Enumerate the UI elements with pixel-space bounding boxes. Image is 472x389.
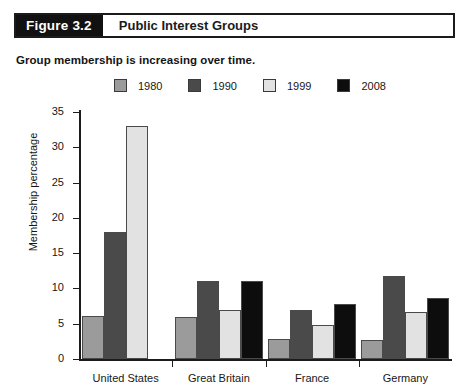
bar-united-states-1999	[126, 126, 148, 359]
bar-united-states-1990	[104, 232, 126, 359]
bar-great-britain-1990	[197, 281, 219, 359]
y-axis-title: Membership percentage	[27, 112, 39, 272]
x-axis-label-united-states: United States	[93, 372, 159, 384]
y-axis-tick: 5	[73, 324, 79, 325]
y-axis-tick: 20	[73, 218, 79, 219]
bar-germany-2008	[427, 298, 449, 359]
y-axis-tick-label: 15	[52, 246, 64, 258]
bar-france-1990	[290, 310, 312, 359]
x-axis-label-france: France	[295, 372, 329, 384]
x-axis-tick	[172, 361, 173, 367]
bar-great-britain-1999	[219, 310, 241, 359]
y-axis-tick-label: 10	[52, 281, 64, 293]
y-axis-tick-label: 20	[52, 211, 64, 223]
x-axis-label-great-britain: Great Britain	[188, 372, 250, 384]
bar-great-britain-2008	[241, 281, 263, 359]
chart-plot-area: Membership percentage 05101520253035Unit…	[0, 0, 472, 389]
x-axis-tick	[359, 361, 360, 367]
bar-great-britain-1980	[175, 317, 197, 359]
y-axis-tick: 15	[73, 253, 79, 254]
y-axis-tick-label: 25	[52, 176, 64, 188]
y-axis-tick: 0	[73, 359, 79, 360]
y-axis-tick: 10	[73, 288, 79, 289]
y-axis-tick-label: 0	[58, 352, 64, 364]
bar-france-2008	[334, 304, 356, 359]
y-axis-tick-label: 30	[52, 140, 64, 152]
bar-france-1999	[312, 325, 334, 359]
y-axis-tick: 25	[73, 183, 79, 184]
bar-france-1980	[268, 339, 290, 359]
y-axis-tick-label: 5	[58, 317, 64, 329]
bar-germany-1990	[383, 276, 405, 359]
bar-germany-1999	[405, 312, 427, 359]
y-axis-tick-label: 35	[52, 105, 64, 117]
bar-germany-1980	[361, 340, 383, 359]
y-axis-tick: 30	[73, 147, 79, 148]
x-axis-label-germany: Germany	[383, 372, 428, 384]
chart-axes: 05101520253035United StatesGreat Britain…	[79, 112, 452, 361]
x-axis-tick	[266, 361, 267, 367]
bar-united-states-1980	[82, 316, 104, 359]
y-axis-tick: 35	[73, 112, 79, 113]
